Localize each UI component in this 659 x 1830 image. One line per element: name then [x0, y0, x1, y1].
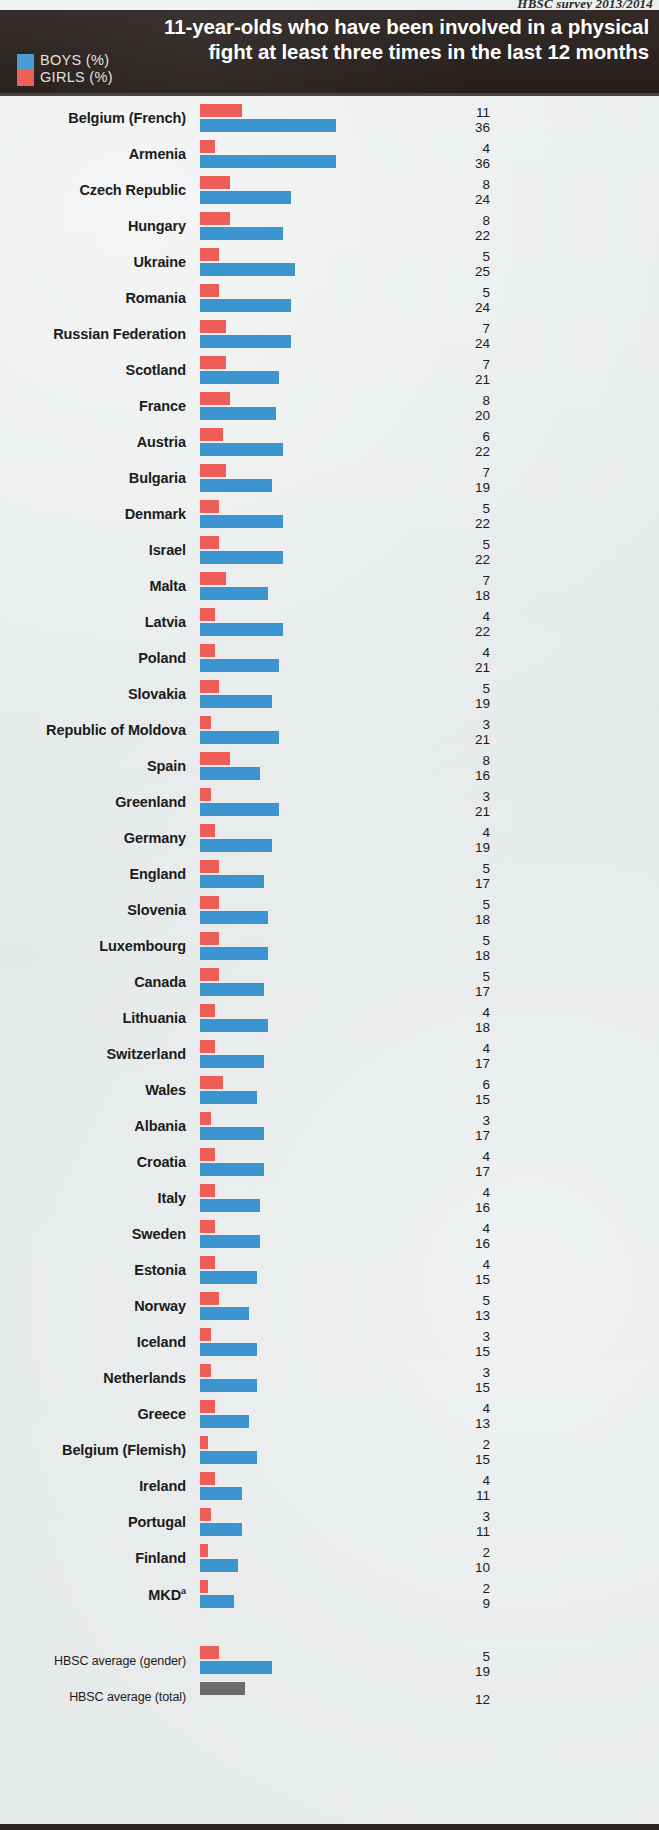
row-label: Denmark: [0, 506, 186, 522]
chart-row: Sweden416: [0, 1215, 659, 1251]
value-boys: 15: [430, 1092, 490, 1107]
value-boys: 22: [430, 624, 490, 639]
bar-girls: [200, 1256, 215, 1269]
value-boys: 24: [430, 192, 490, 207]
bar-boys: [200, 515, 283, 528]
row-bars: [200, 1220, 260, 1248]
bar-girls: [200, 860, 219, 873]
bar-boys: [200, 983, 264, 996]
row-values: 615: [430, 1077, 490, 1107]
value-boys: 18: [430, 588, 490, 603]
bar-girls: [200, 104, 242, 117]
row-bars: [200, 860, 264, 888]
row-bars: [200, 176, 291, 204]
row-values: 419: [430, 825, 490, 855]
chart-row: Belgium (French)1136: [0, 99, 659, 135]
bar-girls: [200, 608, 215, 621]
chart-row: Italy416: [0, 1179, 659, 1215]
row-label: Iceland: [0, 1334, 186, 1350]
row-bars: [200, 1472, 242, 1500]
value-boys: 22: [430, 228, 490, 243]
bar-girls: [200, 500, 219, 513]
row-label: Republic of Moldova: [0, 722, 186, 738]
value-boys: 15: [430, 1344, 490, 1359]
row-label: Canada: [0, 974, 186, 990]
row-values: 415: [430, 1257, 490, 1287]
bar-girls: [200, 464, 226, 477]
row-values: 411: [430, 1473, 490, 1503]
value-boys: 13: [430, 1416, 490, 1431]
bar-boys: [200, 1487, 242, 1500]
row-values: 315: [430, 1365, 490, 1395]
bar-girls: [200, 752, 230, 765]
chart-row: Greenland321: [0, 783, 659, 819]
bar-boys: [200, 1235, 260, 1248]
row-values: 822: [430, 213, 490, 243]
bar-girls: [200, 356, 226, 369]
row-bars: [200, 284, 291, 312]
bar-girls: [200, 1436, 208, 1449]
value-girls: 8: [430, 177, 490, 192]
value-girls: 5: [430, 537, 490, 552]
value-boys: 17: [430, 1164, 490, 1179]
value-boys: 11: [430, 1488, 490, 1503]
row-values: 524: [430, 285, 490, 315]
value-boys: 10: [430, 1560, 490, 1575]
value-boys: 18: [430, 912, 490, 927]
chart-row: Iceland315: [0, 1323, 659, 1359]
chart-row: Republic of Moldova321: [0, 711, 659, 747]
row-label: Luxembourg: [0, 938, 186, 954]
chart-row: Greece413: [0, 1395, 659, 1431]
value-boys: 24: [430, 300, 490, 315]
chart-row: Portugal311: [0, 1503, 659, 1539]
row-label: Netherlands: [0, 1370, 186, 1386]
legend-swatch-girls-icon: [17, 70, 34, 86]
row-bars: [200, 536, 283, 564]
row-label: Slovakia: [0, 686, 186, 702]
row-label: Hungary: [0, 218, 186, 234]
value-girls: 5: [430, 1293, 490, 1308]
row-values: 517: [430, 861, 490, 891]
bar-boys: [200, 1199, 260, 1212]
averages-separator: [0, 1611, 659, 1641]
bar-boys: [200, 1661, 272, 1674]
row-label: Latvia: [0, 614, 186, 630]
legend-label-boys: BOYS (%): [40, 52, 113, 69]
chart-row: Malta718: [0, 567, 659, 603]
row-values: 317: [430, 1113, 490, 1143]
value-boys: 22: [430, 516, 490, 531]
row-bars: [200, 1076, 257, 1104]
chart-row: Wales615: [0, 1071, 659, 1107]
row-bars: [200, 1112, 264, 1140]
bar-boys: [200, 1019, 268, 1032]
bar-girls: [200, 1076, 223, 1089]
row-bars: [200, 1544, 238, 1572]
value-girls: 4: [430, 1005, 490, 1020]
value-girls: 5: [430, 249, 490, 264]
row-label: Belgium (French): [0, 110, 186, 126]
bar-girls: [200, 536, 219, 549]
value-girls: 3: [430, 1509, 490, 1524]
row-values: 417: [430, 1149, 490, 1179]
bar-girls: [200, 212, 230, 225]
value-girls: 7: [430, 357, 490, 372]
value-boys: 15: [430, 1452, 490, 1467]
bar-girls: [200, 1364, 211, 1377]
row-label: Poland: [0, 650, 186, 666]
chart-row: Netherlands315: [0, 1359, 659, 1395]
row-bars: [200, 1400, 249, 1428]
chart-row: Slovakia519: [0, 675, 659, 711]
bar-girls: [200, 284, 219, 297]
bar-boys: [200, 191, 291, 204]
value-boys: 36: [430, 156, 490, 171]
row-values: 522: [430, 537, 490, 567]
bar-boys: [200, 1343, 257, 1356]
bar-boys: [200, 227, 283, 240]
value-girls: 5: [430, 861, 490, 876]
row-values: 519: [430, 1649, 490, 1679]
chart-row: Russian Federation724: [0, 315, 659, 351]
row-values: 436: [430, 141, 490, 171]
chart-header: 11-year-olds who have been involved in a…: [0, 10, 659, 93]
chart-row: Spain816: [0, 747, 659, 783]
row-values: 416: [430, 1221, 490, 1251]
